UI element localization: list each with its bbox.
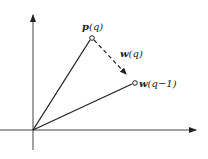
point-w-prev-marker	[133, 81, 138, 86]
point-p-marker	[90, 36, 95, 41]
label-w-q-minus-1: w(q−1)	[139, 78, 177, 89]
vector-diagram: p(q) w(q) w(q−1)	[0, 0, 208, 159]
label-w-q: w(q)	[120, 48, 143, 59]
label-p-q: p(q)	[82, 21, 103, 32]
